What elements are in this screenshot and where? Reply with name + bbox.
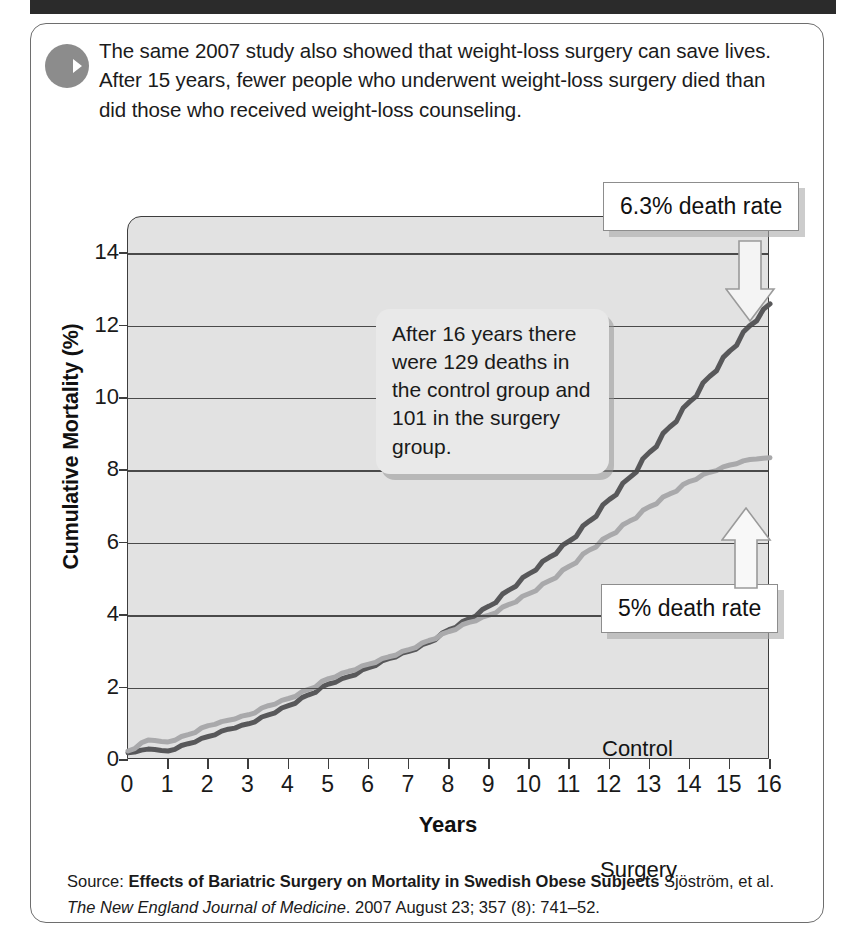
x-axis-title: Years bbox=[127, 812, 769, 838]
y-tick-label: 2 bbox=[79, 674, 119, 700]
source-citation: Source: Effects of Bariatric Surgery on … bbox=[67, 869, 797, 920]
y-tick-mark bbox=[119, 687, 128, 689]
y-tick-label: 10 bbox=[79, 384, 119, 410]
x-tick-mark bbox=[689, 759, 691, 769]
x-tick-label: 12 bbox=[596, 771, 622, 798]
y-tick-label: 0 bbox=[79, 746, 119, 772]
x-tick-mark bbox=[528, 759, 530, 769]
x-tick-label: 3 bbox=[241, 771, 254, 798]
x-tick-label: 15 bbox=[716, 771, 742, 798]
x-tick-label: 0 bbox=[121, 771, 134, 798]
gridline bbox=[128, 253, 768, 254]
x-tick-mark bbox=[207, 759, 209, 769]
x-tick-mark bbox=[328, 759, 330, 769]
x-tick-label: 13 bbox=[636, 771, 662, 798]
y-tick-label: 4 bbox=[79, 601, 119, 627]
source-authors: Sjöström, et al. bbox=[664, 872, 774, 890]
y-tick-label: 12 bbox=[79, 312, 119, 338]
x-tick-label: 2 bbox=[201, 771, 214, 798]
y-tick-mark bbox=[119, 252, 128, 254]
x-tick-label: 16 bbox=[756, 771, 782, 798]
y-tick-label: 6 bbox=[79, 529, 119, 555]
intro-callout: The same 2007 study also showed that wei… bbox=[35, 36, 805, 124]
y-tick-mark bbox=[119, 469, 128, 471]
y-tick-mark bbox=[119, 397, 128, 399]
y-tick-label: 8 bbox=[79, 456, 119, 482]
top-banner bbox=[30, 0, 836, 14]
source-prefix: Source: bbox=[67, 872, 124, 890]
x-tick-label: 14 bbox=[676, 771, 702, 798]
surgery-rate-callout: 5% death rate bbox=[601, 584, 778, 633]
x-tick-label: 8 bbox=[442, 771, 455, 798]
x-tick-mark bbox=[288, 759, 290, 769]
plot-area: Surgery Control bbox=[127, 216, 769, 759]
x-tick-mark bbox=[448, 759, 450, 769]
x-tick-mark bbox=[368, 759, 370, 769]
x-tick-label: 6 bbox=[361, 771, 374, 798]
chart: Cumulative Mortality (%) 02468101214 Sur… bbox=[31, 154, 825, 854]
source-details: . 2007 August 23; 357 (8): 741–52. bbox=[346, 898, 600, 916]
x-tick-mark bbox=[769, 759, 771, 769]
x-tick-mark bbox=[568, 759, 570, 769]
x-tick-mark bbox=[167, 759, 169, 769]
y-axis-ticks: 02468101214 bbox=[71, 216, 119, 759]
x-tick-mark bbox=[408, 759, 410, 769]
note-callout: After 16 years there were 129 deaths in … bbox=[376, 309, 609, 474]
intro-text: The same 2007 study also showed that wei… bbox=[99, 36, 805, 124]
arrow-right-circle-icon bbox=[43, 42, 91, 90]
x-tick-label: 7 bbox=[401, 771, 414, 798]
x-tick-mark bbox=[729, 759, 731, 769]
x-tick-mark bbox=[247, 759, 249, 769]
x-tick-label: 5 bbox=[321, 771, 334, 798]
source-journal: The New England Journal of Medicine bbox=[67, 898, 346, 916]
y-tick-mark bbox=[119, 614, 128, 616]
series-lines bbox=[128, 217, 770, 760]
control-rate-callout: 6.3% death rate bbox=[603, 182, 799, 231]
x-tick-label: 4 bbox=[281, 771, 294, 798]
x-tick-label: 1 bbox=[161, 771, 174, 798]
y-tick-mark bbox=[119, 759, 128, 761]
gridline bbox=[128, 543, 768, 544]
control-rate-arrow-down-icon bbox=[725, 239, 779, 325]
x-tick-mark bbox=[609, 759, 611, 769]
x-tick-label: 9 bbox=[482, 771, 495, 798]
source-title: Effects of Bariatric Surgery on Mortalit… bbox=[128, 872, 659, 890]
y-tick-label: 14 bbox=[79, 239, 119, 265]
x-tick-label: 10 bbox=[515, 771, 541, 798]
y-tick-mark bbox=[119, 325, 128, 327]
series-label-control: Control bbox=[602, 736, 673, 762]
content-card: The same 2007 study also showed that wei… bbox=[30, 23, 824, 923]
gridline bbox=[128, 688, 768, 689]
surgery-rate-arrow-up-icon bbox=[721, 506, 775, 590]
x-tick-mark bbox=[488, 759, 490, 769]
x-tick-mark bbox=[649, 759, 651, 769]
x-tick-label: 11 bbox=[556, 771, 580, 798]
y-tick-mark bbox=[119, 542, 128, 544]
